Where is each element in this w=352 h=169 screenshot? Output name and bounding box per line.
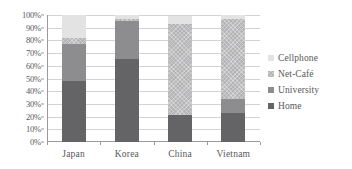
y-tick-label: 50% — [26, 74, 41, 83]
y-tick-label: 40% — [26, 87, 41, 96]
bar-segment[interactable] — [62, 44, 86, 81]
bar-slot — [100, 15, 153, 142]
legend-item-label: Home — [278, 101, 302, 112]
bar-segment[interactable] — [62, 81, 86, 142]
bar-slot — [154, 15, 207, 142]
y-tick-mark — [41, 53, 44, 54]
x-tick-mark — [100, 142, 101, 145]
x-tick-mark — [47, 142, 48, 145]
bar-segment[interactable] — [115, 19, 139, 22]
bar-segment[interactable] — [221, 15, 245, 19]
y-tick-mark — [41, 65, 44, 66]
y-tick-mark — [41, 116, 44, 117]
bars-layer — [47, 15, 260, 142]
bar-slot — [207, 15, 260, 142]
bar-segment[interactable] — [115, 59, 139, 142]
y-tick-mark — [41, 103, 44, 104]
bar-segment[interactable] — [221, 19, 245, 99]
bar-segment[interactable] — [221, 113, 245, 142]
legend-swatch-icon — [268, 71, 274, 77]
y-tick-label: 30% — [26, 99, 41, 108]
y-tick-mark — [41, 91, 44, 92]
y-tick-label: 10% — [26, 125, 41, 134]
y-tick-label: 80% — [26, 36, 41, 45]
legend-swatch-icon — [268, 103, 274, 109]
legend-item[interactable]: University — [268, 82, 352, 98]
y-tick-label: 100% — [22, 11, 41, 20]
x-tick-label: Japan — [47, 149, 100, 160]
y-tick-label: 20% — [26, 112, 41, 121]
y-tick-mark — [41, 129, 44, 130]
bar-segment[interactable] — [168, 16, 192, 24]
y-tick-mark — [41, 78, 44, 79]
stacked-bar-chart: 100%90%80%70%60%50%40%30%20%10%0% JapanK… — [0, 0, 352, 169]
x-tick-mark — [154, 142, 155, 145]
bar-segment[interactable] — [62, 15, 86, 38]
y-tick-mark — [41, 40, 44, 41]
bar-segment[interactable] — [62, 38, 86, 44]
legend-item[interactable]: Cellphone — [268, 50, 352, 66]
chart-legend: CellphoneNet-CaféUniversityHome — [268, 50, 352, 114]
legend-swatch-icon — [268, 55, 274, 61]
y-tick-mark — [41, 15, 44, 16]
bar-segment[interactable] — [168, 24, 192, 115]
x-tick-label: China — [154, 149, 207, 160]
y-tick-label: 70% — [26, 49, 41, 58]
legend-item[interactable]: Home — [268, 98, 352, 114]
x-axis: JapanKoreaChinaVietnam — [47, 142, 260, 169]
y-tick-mark — [41, 27, 44, 28]
x-tick-mark — [260, 142, 261, 145]
y-tick-mark — [41, 142, 44, 143]
bar-segment[interactable] — [168, 115, 192, 142]
x-tick-label: Korea — [100, 149, 153, 160]
bar-segment[interactable] — [221, 99, 245, 113]
legend-swatch-icon — [268, 87, 274, 93]
bar-segment[interactable] — [115, 15, 139, 19]
legend-item[interactable]: Net-Café — [268, 66, 352, 82]
x-tick-mark — [207, 142, 208, 145]
legend-item-label: Net-Café — [278, 69, 314, 80]
y-tick-label: 60% — [26, 61, 41, 70]
legend-item-label: Cellphone — [278, 53, 318, 64]
y-axis: 100%90%80%70%60%50%40%30%20%10%0% — [0, 15, 44, 142]
bar-segment[interactable] — [115, 21, 139, 59]
x-tick-label: Vietnam — [207, 149, 260, 160]
y-tick-label: 0% — [30, 138, 41, 147]
legend-item-label: University — [278, 85, 319, 96]
bar-slot — [47, 15, 100, 142]
y-tick-label: 90% — [26, 23, 41, 32]
